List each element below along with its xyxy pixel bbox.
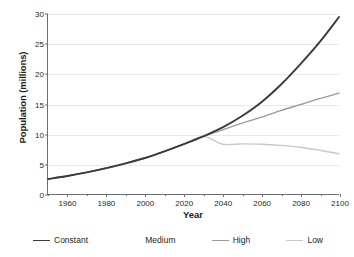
x-tick-mark bbox=[145, 194, 146, 197]
series-line-low bbox=[48, 136, 339, 179]
legend-label: Constant bbox=[54, 235, 88, 245]
legend-label: High bbox=[233, 235, 250, 245]
x-axis-title: Year bbox=[47, 209, 339, 220]
x-tick-label: 2040 bbox=[214, 199, 232, 208]
y-axis-title: Population (millions) bbox=[17, 18, 28, 178]
series-line-constant bbox=[48, 17, 339, 179]
x-tick-label: 2020 bbox=[175, 199, 193, 208]
x-tick-mark bbox=[340, 194, 341, 197]
x-minor-tick-mark bbox=[165, 194, 166, 196]
y-tick-label: 5 bbox=[40, 160, 44, 169]
population-projection-chart: Population (millions) 051015202530 19601… bbox=[0, 0, 354, 257]
y-tick-label: 25 bbox=[35, 40, 44, 49]
x-tick-mark bbox=[262, 194, 263, 197]
series-line-medium bbox=[48, 112, 339, 179]
x-tick-label: 1980 bbox=[97, 199, 115, 208]
series-lines bbox=[48, 14, 339, 194]
legend-item-low[interactable]: Low bbox=[286, 235, 323, 245]
x-tick-label: 2000 bbox=[136, 199, 154, 208]
series-line-high bbox=[48, 93, 339, 179]
x-tick-mark bbox=[106, 194, 107, 197]
legend-swatch-medium-icon bbox=[124, 240, 141, 241]
legend-item-medium[interactable]: Medium bbox=[124, 235, 175, 245]
x-tick-mark bbox=[301, 194, 302, 197]
y-tick-label: 15 bbox=[35, 100, 44, 109]
x-tick-mark bbox=[223, 194, 224, 197]
x-minor-tick-mark bbox=[243, 194, 244, 196]
legend-item-constant[interactable]: Constant bbox=[33, 235, 88, 245]
legend-swatch-constant-icon bbox=[33, 240, 50, 241]
x-tick-label: 2100 bbox=[331, 199, 349, 208]
y-tick-label: 30 bbox=[35, 10, 44, 19]
x-minor-tick-mark bbox=[282, 194, 283, 196]
y-tick-label: 0 bbox=[40, 191, 44, 200]
y-tick-label: 10 bbox=[35, 130, 44, 139]
plot-area: 051015202530 196019802000202020402060208… bbox=[47, 14, 339, 195]
x-minor-tick-mark bbox=[321, 194, 322, 196]
legend-item-high[interactable]: High bbox=[212, 235, 250, 245]
chart-legend: ConstantMediumHighLow bbox=[33, 232, 323, 248]
x-minor-tick-mark bbox=[204, 194, 205, 196]
x-tick-label: 1960 bbox=[59, 199, 77, 208]
x-tick-label: 2080 bbox=[292, 199, 310, 208]
x-tick-mark bbox=[67, 194, 68, 197]
x-minor-tick-mark bbox=[87, 194, 88, 196]
x-minor-tick-mark bbox=[126, 194, 127, 196]
y-tick-label: 20 bbox=[35, 70, 44, 79]
x-minor-tick-mark bbox=[48, 194, 49, 196]
x-tick-label: 2060 bbox=[253, 199, 271, 208]
legend-swatch-high-icon bbox=[212, 240, 229, 241]
legend-swatch-low-icon bbox=[286, 240, 303, 241]
x-tick-mark bbox=[184, 194, 185, 197]
legend-label: Medium bbox=[145, 235, 175, 245]
legend-label: Low bbox=[307, 235, 323, 245]
